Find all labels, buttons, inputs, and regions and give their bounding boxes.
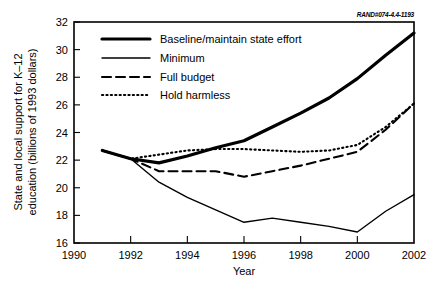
y-tick-label: 22 [56, 154, 68, 166]
x-axis: 1990199219941996199820002002 [62, 236, 426, 261]
data-series-group [102, 33, 414, 232]
legend-label: Minimum [160, 52, 205, 64]
plot-frame [74, 22, 414, 243]
y-tick-label: 18 [56, 209, 68, 221]
x-tick-label: 1992 [118, 249, 142, 261]
y-tick-label: 20 [56, 182, 68, 194]
y-tick-label: 26 [56, 99, 68, 111]
chart-legend: Baseline/maintain state effortMinimumFul… [102, 33, 302, 101]
y-tick-label: 28 [56, 71, 68, 83]
x-tick-label: 1994 [175, 249, 199, 261]
line-chart: RAND#074-4.4-1193 161820222426283032 199… [0, 0, 448, 287]
rand-document-id: RAND#074-4.4-1193 [357, 11, 415, 18]
series-line [102, 103, 414, 158]
x-tick-label: 1996 [232, 249, 256, 261]
legend-label: Hold harmless [160, 89, 231, 101]
y-axis-title-line-2: education (billions of 1993 dollars) [26, 49, 38, 216]
x-tick-label: 2002 [402, 249, 426, 261]
y-tick-label: 16 [56, 237, 68, 249]
legend-label: Full budget [160, 71, 214, 83]
chart-figure: RAND#074-4.4-1193 161820222426283032 199… [0, 0, 448, 287]
y-tick-label: 32 [56, 16, 68, 28]
x-tick-label: 1990 [62, 249, 86, 261]
x-tick-label: 1998 [288, 249, 312, 261]
x-axis-title: Year [233, 265, 256, 277]
y-axis-title-line-1: State and local support for K–12 [12, 53, 24, 210]
series-line [102, 103, 414, 176]
legend-label: Baseline/maintain state effort [160, 33, 302, 45]
y-axis: 161820222426283032 [56, 16, 80, 249]
x-tick-label: 2000 [345, 249, 369, 261]
y-tick-label: 24 [56, 127, 68, 139]
y-tick-label: 30 [56, 44, 68, 56]
